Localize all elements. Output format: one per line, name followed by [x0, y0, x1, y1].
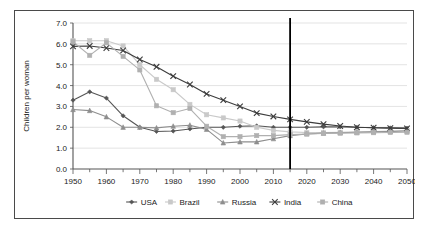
data-point-china [255, 134, 259, 138]
data-point-china [338, 131, 342, 135]
data-point-usa [221, 125, 225, 129]
data-point-china [154, 104, 158, 108]
data-point-china [271, 134, 275, 138]
data-point-china [388, 130, 392, 134]
data-point-china [138, 68, 142, 72]
data-point-brazil [138, 63, 142, 67]
data-point-brazil [121, 44, 125, 48]
data-point-china [205, 124, 209, 128]
line-chart: 0.01.02.03.04.05.06.07.01950196019701980… [15, 11, 415, 220]
legend-marker-china [321, 200, 325, 204]
x-tick-label: 2000 [231, 177, 249, 186]
data-point-usa [305, 125, 309, 129]
x-tick-label: 1970 [131, 177, 149, 186]
x-tick-label: 1980 [164, 177, 182, 186]
y-tick-label: 4.0 [56, 82, 68, 91]
data-point-china [88, 53, 92, 57]
x-tick-label: 1990 [198, 177, 216, 186]
data-point-china [104, 41, 108, 45]
data-point-usa [71, 98, 75, 102]
data-point-china [121, 54, 125, 58]
legend-label-brazil[interactable]: Brazil [179, 198, 199, 207]
chart-figure: 0.01.02.03.04.05.06.07.01950196019701980… [14, 10, 414, 219]
data-point-china [71, 40, 75, 44]
data-point-china [405, 130, 409, 134]
data-point-usa [88, 90, 92, 94]
y-tick-label: 2.0 [56, 123, 68, 132]
data-point-china [171, 111, 175, 115]
data-point-china [372, 131, 376, 135]
data-point-brazil [271, 128, 275, 132]
x-tick-label: 1960 [98, 177, 116, 186]
y-tick-label: 7.0 [56, 19, 68, 28]
x-tick-label: 2040 [365, 177, 383, 186]
y-axis-title: Children per woman [22, 60, 31, 132]
data-point-brazil [205, 113, 209, 117]
data-point-china [305, 132, 309, 136]
x-tick-label: 2020 [298, 177, 316, 186]
data-point-brazil [154, 77, 158, 81]
y-tick-label: 1.0 [56, 144, 68, 153]
data-point-brazil [255, 125, 259, 129]
legend-marker-brazil [168, 200, 172, 204]
x-tick-label: 2010 [265, 177, 283, 186]
legend-label-india[interactable]: India [284, 198, 302, 207]
x-tick-label: 2050 [398, 177, 415, 186]
y-tick-label: 3.0 [56, 102, 68, 111]
data-point-brazil [88, 39, 92, 43]
data-point-china [188, 106, 192, 110]
data-point-brazil [171, 88, 175, 92]
legend-label-china[interactable]: China [332, 198, 353, 207]
y-tick-label: 5.0 [56, 61, 68, 70]
data-point-brazil [238, 119, 242, 123]
x-tick-label: 2030 [331, 177, 349, 186]
y-tick-label: 6.0 [56, 40, 68, 49]
data-point-china [321, 131, 325, 135]
x-tick-label: 1950 [64, 177, 82, 186]
data-point-brazil [188, 102, 192, 106]
data-point-china [355, 131, 359, 135]
data-point-china [238, 135, 242, 139]
chart-plot-area: 0.01.02.03.04.05.06.07.01950196019701980… [15, 11, 415, 220]
y-tick-label: 0.0 [56, 165, 68, 174]
legend-label-usa[interactable]: USA [141, 198, 158, 207]
data-point-china [221, 135, 225, 139]
data-point-usa [171, 129, 175, 133]
data-point-brazil [221, 116, 225, 120]
legend-label-russia[interactable]: Russia [232, 198, 257, 207]
data-point-usa [238, 124, 242, 128]
legend-marker-usa [130, 200, 134, 204]
